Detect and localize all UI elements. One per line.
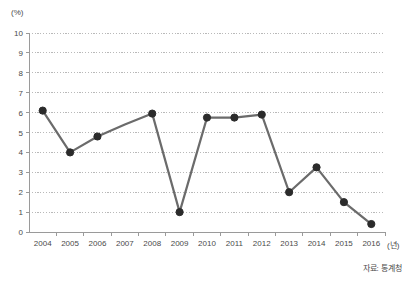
data-point-marker (258, 111, 265, 118)
x-axis-tick-label: 2007 (116, 239, 134, 248)
y-axis-tick-label: 3 (19, 168, 24, 177)
y-axis-tick-label: 10 (14, 29, 23, 38)
data-point-marker (66, 149, 73, 156)
y-axis-tick-label: 1 (19, 208, 24, 217)
data-point-marker (286, 189, 293, 196)
x-axis-tick-label: 2012 (253, 239, 271, 248)
data-point-marker (203, 114, 210, 121)
data-point-marker (94, 133, 101, 140)
y-axis-tick-label: 0 (19, 228, 24, 237)
y-axis-tick-label: 5 (19, 129, 24, 138)
data-point-marker (39, 107, 46, 114)
y-axis-tick-label: 6 (19, 109, 24, 118)
x-axis-tick-label: 2015 (335, 239, 353, 248)
data-point-marker (149, 110, 156, 117)
x-axis-tick-label: 2004 (34, 239, 52, 248)
x-axis-tick-label: 2009 (171, 239, 189, 248)
x-axis-tick-label: 2010 (198, 239, 216, 248)
x-axis-tick-label: 2013 (280, 239, 298, 248)
y-axis-tick-label: 9 (19, 49, 24, 58)
x-axis-tick-label: 2005 (61, 239, 79, 248)
data-series-line (43, 111, 372, 224)
y-axis-tick-label: 2 (19, 188, 24, 197)
x-axis-tick-label: 2014 (308, 239, 326, 248)
line-chart-figure: (%) 012345678910200420052006200720082009… (0, 0, 414, 281)
chart-plot-area: 0123456789102004200520062007200820092010… (0, 0, 414, 281)
data-point-marker (176, 209, 183, 216)
x-axis-tick-label: 2016 (362, 239, 380, 248)
x-axis-tick-label: 2008 (143, 239, 161, 248)
source-note: 자료: 통계청 (363, 262, 402, 273)
data-point-marker (368, 220, 375, 227)
x-axis-unit-label: (년) (387, 239, 399, 250)
x-axis-tick-label: 2011 (226, 239, 244, 248)
y-axis-tick-label: 7 (19, 89, 24, 98)
y-axis-tick-label: 4 (19, 148, 24, 157)
x-axis-tick-label: 2006 (89, 239, 107, 248)
data-point-marker (313, 164, 320, 171)
data-point-marker (231, 114, 238, 121)
data-point-marker (340, 199, 347, 206)
y-axis-tick-label: 8 (19, 69, 24, 78)
